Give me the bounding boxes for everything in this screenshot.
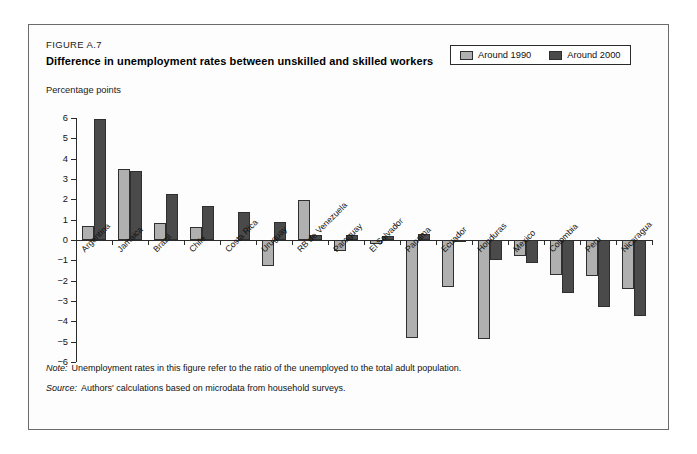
bar xyxy=(598,240,610,307)
bar xyxy=(562,240,574,293)
legend-label-around-1990: Around 1990 xyxy=(478,50,531,60)
y-axis-tick-label: 0 xyxy=(63,235,68,245)
x-axis-tick xyxy=(184,240,185,245)
source-text: Authors' calculations based on microdata… xyxy=(81,383,345,393)
note-keyword: Note: xyxy=(46,363,68,373)
x-axis-tick xyxy=(508,240,509,245)
legend-swatch-icon-around-2000 xyxy=(549,51,562,60)
y-axis-tick xyxy=(71,118,76,119)
figure-number: FIGURE A.7 xyxy=(46,39,102,50)
x-axis-tick xyxy=(400,240,401,245)
note-text: Unemployment rates in this figure refer … xyxy=(72,363,462,373)
x-axis-tick xyxy=(112,240,113,245)
y-axis-tick xyxy=(71,199,76,200)
y-axis-tick-label: 1 xyxy=(63,215,68,225)
x-axis-tick xyxy=(76,240,77,245)
x-axis-tick xyxy=(148,240,149,245)
chart-legend: Around 1990 Around 2000 xyxy=(450,45,631,65)
x-axis-tick xyxy=(544,240,545,245)
note-row: Note:Unemployment rates in this figure r… xyxy=(46,363,646,374)
figure-notes: Note:Unemployment rates in this figure r… xyxy=(46,363,646,403)
y-axis-tick xyxy=(71,138,76,139)
x-axis-tick xyxy=(292,240,293,245)
figure-frame: FIGURE A.7 Difference in unemployment ra… xyxy=(28,24,669,430)
bar xyxy=(406,240,418,338)
legend-item-around-2000: Around 2000 xyxy=(549,50,620,60)
axis-unit-label: Percentage points xyxy=(46,85,121,95)
x-axis-tick xyxy=(652,240,653,245)
y-axis-tick xyxy=(71,260,76,261)
y-axis-tick-label: 6 xyxy=(63,113,68,123)
y-axis-tick xyxy=(71,281,76,282)
legend-item-around-1990: Around 1990 xyxy=(460,50,531,60)
x-axis-tick xyxy=(472,240,473,245)
x-axis-tick xyxy=(328,240,329,245)
y-axis-tick xyxy=(71,301,76,302)
bar xyxy=(118,169,130,240)
source-row: Source:Authors' calculations based on mi… xyxy=(46,383,646,394)
y-axis-tick xyxy=(71,342,76,343)
x-axis-tick xyxy=(256,240,257,245)
bar-chart-plot: 6543210−1−2−3−4−5−6 ArgentinaJamaicaBraz… xyxy=(76,118,652,362)
bar xyxy=(634,240,646,316)
y-axis-tick-label: 3 xyxy=(63,174,68,184)
x-axis-tick xyxy=(436,240,437,245)
y-axis-tick xyxy=(71,321,76,322)
legend-swatch-icon-around-1990 xyxy=(460,51,473,60)
legend-label-around-2000: Around 2000 xyxy=(567,50,620,60)
x-axis-tick xyxy=(580,240,581,245)
bar xyxy=(478,240,490,339)
y-axis-tick-label: −5 xyxy=(57,337,68,347)
y-axis-tick-label: 2 xyxy=(63,194,68,204)
y-axis-tick xyxy=(71,159,76,160)
y-axis-tick-label: −4 xyxy=(57,316,68,326)
y-axis-tick xyxy=(71,220,76,221)
y-axis-tick-label: 4 xyxy=(63,154,68,164)
x-axis-tick xyxy=(616,240,617,245)
page-title: Difference in unemployment rates between… xyxy=(46,55,433,67)
x-axis-tick xyxy=(220,240,221,245)
x-axis-tick xyxy=(364,240,365,245)
y-axis-tick-label: −1 xyxy=(57,255,68,265)
y-axis-tick xyxy=(71,179,76,180)
source-keyword: Source: xyxy=(46,383,77,393)
y-axis-tick-label: −3 xyxy=(57,296,68,306)
y-axis-tick-label: 5 xyxy=(63,133,68,143)
y-axis-tick-label: −2 xyxy=(57,276,68,286)
